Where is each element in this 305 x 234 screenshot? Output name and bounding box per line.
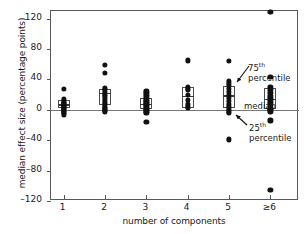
figure: median effect size (percentage points) n… — [0, 0, 305, 234]
arrow-75th-percentile — [237, 66, 249, 82]
arrow-25th-percentile — [236, 115, 247, 125]
annotation-arrows — [0, 0, 305, 234]
